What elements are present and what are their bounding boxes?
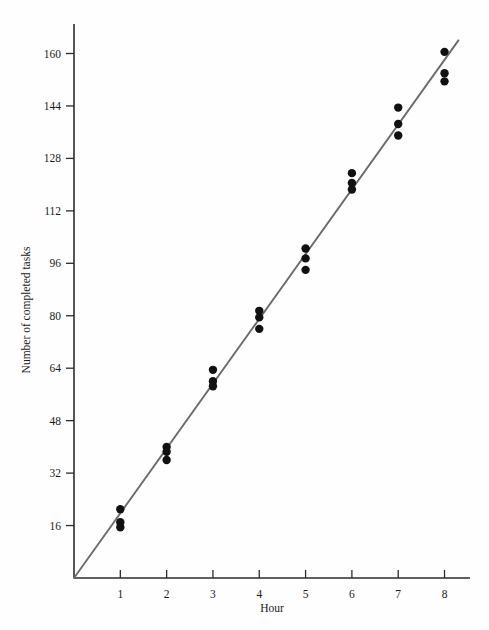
x-tick-label: 4 — [256, 588, 262, 600]
x-tick-label: 8 — [442, 588, 448, 600]
y-tick-label: 16 — [50, 520, 62, 532]
data-point — [209, 382, 217, 390]
y-tick-label: 128 — [44, 152, 62, 164]
data-points — [116, 48, 449, 532]
x-axis-tick-labels: 12345678 — [117, 588, 447, 600]
y-tick-label: 112 — [44, 205, 61, 217]
data-point — [255, 325, 263, 333]
data-point — [440, 69, 448, 77]
y-tick-label: 80 — [50, 310, 62, 322]
x-tick-label: 2 — [164, 588, 170, 600]
data-point — [162, 448, 170, 456]
x-axis-ticks — [120, 570, 444, 578]
y-tick-label: 160 — [44, 48, 62, 60]
plot-canvas: 163248648096112128144160 12345678 Hour N… — [0, 0, 489, 630]
data-point — [301, 244, 309, 252]
data-point — [348, 169, 356, 177]
y-tick-label: 48 — [50, 415, 62, 427]
x-tick-label: 6 — [349, 588, 355, 600]
y-tick-label: 32 — [50, 467, 62, 479]
data-point — [116, 505, 124, 513]
data-point — [301, 266, 309, 274]
y-axis-label: Number of completed tasks — [20, 246, 33, 373]
x-tick-label: 3 — [210, 588, 216, 600]
y-tick-label: 64 — [50, 362, 62, 374]
data-point — [301, 254, 309, 262]
y-tick-label: 144 — [44, 100, 62, 112]
data-point — [394, 131, 402, 139]
data-point — [116, 523, 124, 531]
y-axis-tick-labels: 163248648096112128144160 — [44, 48, 62, 532]
data-point — [209, 366, 217, 374]
data-point — [394, 103, 402, 111]
scatter-plot-figure: 163248648096112128144160 12345678 Hour N… — [0, 0, 489, 630]
x-tick-label: 7 — [395, 588, 401, 600]
x-axis-label: Hour — [260, 602, 284, 614]
x-tick-label: 1 — [117, 588, 123, 600]
data-point — [394, 120, 402, 128]
y-axis-ticks — [66, 54, 74, 526]
data-point — [162, 456, 170, 464]
data-point — [440, 77, 448, 85]
data-point — [440, 48, 448, 56]
data-point — [348, 185, 356, 193]
x-tick-label: 5 — [303, 588, 309, 600]
data-point — [255, 313, 263, 321]
y-tick-label: 96 — [50, 257, 62, 269]
